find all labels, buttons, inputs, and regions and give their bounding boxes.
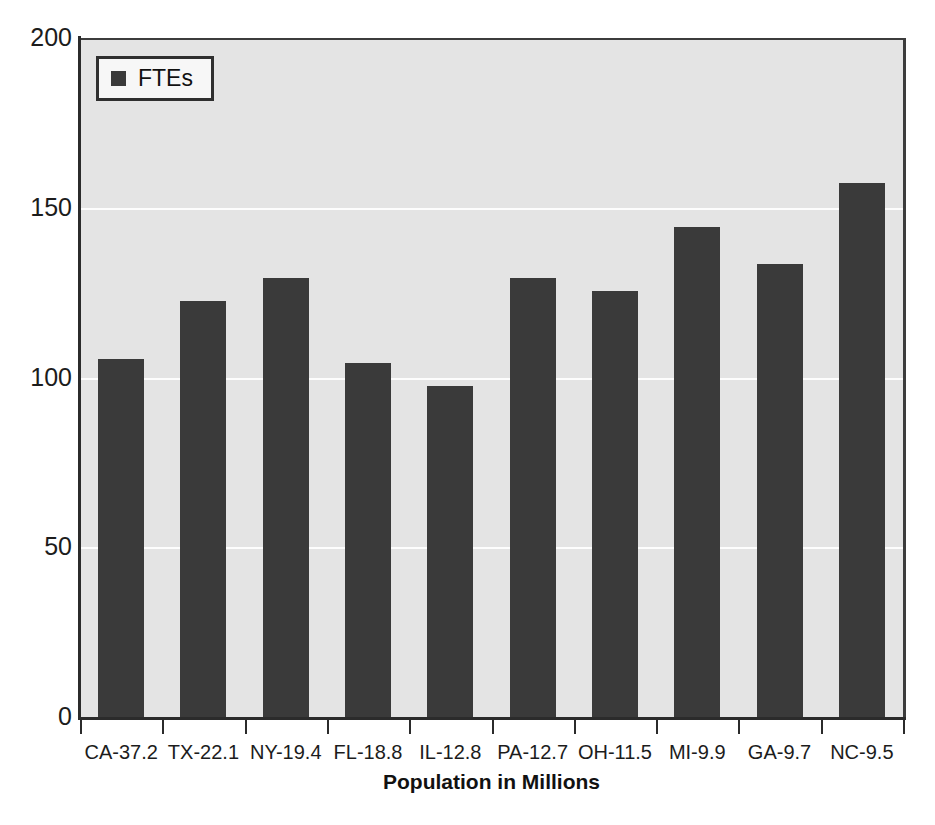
x-tick-mark-9 bbox=[903, 720, 905, 734]
x-tick-label-TX-22.1: TX-22.1 bbox=[162, 741, 244, 763]
x-tick-label-FL-18.8: FL-18.8 bbox=[327, 741, 409, 763]
x-tick-label-NC-9.5: NC-9.5 bbox=[821, 741, 903, 763]
bar-GA-9.7 bbox=[757, 264, 803, 719]
x-tick-mark-6 bbox=[656, 720, 658, 734]
x-tick-mark-1 bbox=[245, 720, 247, 734]
x-tick-label-PA-12.7: PA-12.7 bbox=[492, 741, 574, 763]
x-tick-mark-4 bbox=[492, 720, 494, 734]
y-tick-label-50: 50 bbox=[4, 534, 72, 559]
x-tick-label-GA-9.7: GA-9.7 bbox=[738, 741, 820, 763]
bar-TX-22.1 bbox=[180, 301, 226, 719]
y-tick-label-0: 0 bbox=[4, 704, 72, 729]
x-tick-label-CA-37.2: CA-37.2 bbox=[80, 741, 162, 763]
legend-swatch-ftes-icon bbox=[111, 71, 126, 86]
x-tick-label-IL-12.8: IL-12.8 bbox=[409, 741, 491, 763]
chart-legend: FTEs bbox=[96, 56, 214, 101]
x-tick-label-MI-9.9: MI-9.9 bbox=[656, 741, 738, 763]
bar-CA-37.2 bbox=[98, 359, 144, 719]
bar-IL-12.8 bbox=[427, 386, 473, 719]
plot-area bbox=[80, 38, 906, 719]
bar-MI-9.9 bbox=[674, 227, 720, 719]
x-tick-label-OH-11.5: OH-11.5 bbox=[574, 741, 656, 763]
y-axis-tick-labels: 050100150200 bbox=[0, 0, 72, 825]
x-tick-mark-3 bbox=[409, 720, 411, 734]
x-tick-mark-8 bbox=[821, 720, 823, 734]
x-axis-title: Population in Millions bbox=[80, 770, 903, 794]
bar-NC-9.5 bbox=[839, 183, 885, 719]
bar-PA-12.7 bbox=[510, 278, 556, 719]
x-tick-mark-7 bbox=[738, 720, 740, 734]
x-tick-mark-origin bbox=[80, 720, 82, 734]
bar-chart-figure: 050100150200 FTEs Population in Millions… bbox=[0, 0, 935, 825]
bar-OH-11.5 bbox=[592, 291, 638, 719]
legend-label-ftes: FTEs bbox=[138, 67, 193, 90]
gridline-150 bbox=[80, 208, 903, 210]
y-tick-label-100: 100 bbox=[4, 365, 72, 390]
y-tick-label-200: 200 bbox=[4, 25, 72, 50]
y-axis-spine bbox=[78, 36, 81, 719]
bar-FL-18.8 bbox=[345, 363, 391, 719]
bar-NY-19.4 bbox=[263, 278, 309, 719]
x-tick-mark-0 bbox=[162, 720, 164, 734]
x-tick-mark-2 bbox=[327, 720, 329, 734]
x-tick-label-NY-19.4: NY-19.4 bbox=[245, 741, 327, 763]
y-tick-label-150: 150 bbox=[4, 195, 72, 220]
x-tick-mark-5 bbox=[574, 720, 576, 734]
